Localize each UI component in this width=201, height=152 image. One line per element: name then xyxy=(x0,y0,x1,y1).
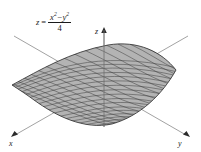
axis-label-z: z xyxy=(95,27,98,36)
axis-label-y: y xyxy=(178,139,182,148)
equation-lhs: z xyxy=(36,18,39,27)
figure-canvas: z = x2−y2 4 x y z xyxy=(0,0,201,152)
equation-fraction: x2−y2 4 xyxy=(48,13,71,32)
saddle-surface xyxy=(8,44,179,127)
arrowhead-x xyxy=(11,131,18,137)
axis-label-x: x xyxy=(9,139,13,148)
equation-equals-sign: = xyxy=(41,18,46,27)
arrowhead-y xyxy=(183,131,190,137)
equation-label: z = x2−y2 4 xyxy=(36,13,71,32)
equation-numerator: x2−y2 xyxy=(48,13,71,23)
equation-denominator: 4 xyxy=(57,23,61,32)
numerator-exp-y: 2 xyxy=(66,11,69,17)
surface-plot-svg xyxy=(0,0,201,152)
